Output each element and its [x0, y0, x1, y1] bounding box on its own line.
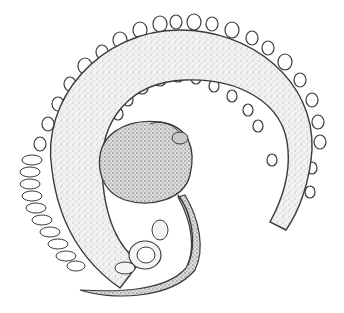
organism-illustration	[0, 0, 344, 313]
illustration-canvas	[0, 0, 344, 313]
snail-shell	[99, 121, 192, 203]
